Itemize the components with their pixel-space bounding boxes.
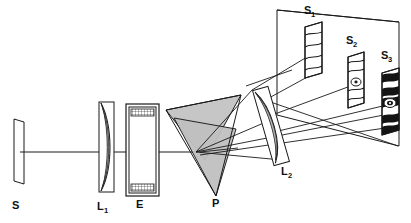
label-s2: S 2 [346, 34, 357, 49]
label-l2: L 2 [281, 165, 292, 180]
etalon-cell-body [126, 104, 159, 196]
label-s1: S 1 [304, 4, 315, 19]
svg-text:P: P [212, 197, 219, 209]
label-l1: L 1 [97, 200, 108, 215]
svg-text:3: 3 [388, 55, 392, 64]
label-s: S [12, 199, 19, 211]
svg-text:2: 2 [353, 40, 357, 49]
svg-text:2: 2 [288, 171, 292, 180]
svg-text:S: S [12, 199, 19, 211]
svg-text:1: 1 [311, 10, 315, 19]
svg-text:1: 1 [104, 206, 108, 215]
svg-text:L: L [97, 200, 104, 212]
label-p: P [212, 197, 219, 209]
svg-text:E: E [136, 198, 143, 210]
screen-s1-strip [303, 22, 324, 78]
electrode-top [131, 109, 154, 116]
electrode-bottom [131, 184, 154, 191]
lens-l1-body [99, 102, 114, 192]
screen-s3-strip [380, 68, 401, 139]
s2-center-spot [351, 78, 361, 86]
label-s3: S 3 [381, 49, 392, 64]
lens-l2-body [253, 86, 290, 165]
screen-s2-strip [346, 52, 366, 108]
s3-center-spot [384, 99, 396, 108]
label-e: E [136, 198, 143, 210]
optical-diagram-figure: S L 1 E P L 2 S 1 S 2 S 3 [0, 0, 411, 223]
optical-diagram-svg: S L 1 E P L 2 S 1 S 2 S 3 [0, 0, 411, 223]
svg-text:L: L [281, 165, 288, 177]
